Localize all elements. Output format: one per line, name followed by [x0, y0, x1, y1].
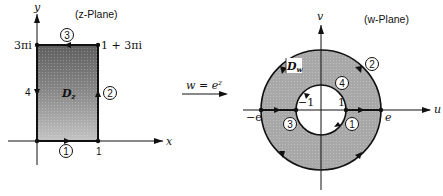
- corner-label-top-left: 3πi: [14, 39, 32, 52]
- x-axis-arrow-icon: [154, 138, 163, 144]
- svg-text:4: 4: [339, 78, 345, 89]
- x-tick-1: 1: [96, 146, 102, 157]
- z-plane-title: (z-Plane): [75, 8, 118, 20]
- conformal-map-figure: (z-Plane) y x 3πi 1 + 3πi 1 Dz 1 2 3 4 w…: [0, 0, 443, 196]
- svg-text:2: 2: [107, 88, 113, 99]
- curve-badge-pos-segment: 4: [336, 77, 349, 90]
- mapping-arrow: w = ez: [182, 79, 228, 97]
- corner-dot: [96, 139, 100, 143]
- w-plane: (w-Plane) v u −e −1 1 e Dw 1 2 3 4: [243, 10, 441, 190]
- tick-label-neg-e: −e: [246, 111, 262, 124]
- diagram-canvas: (z-Plane) y x 3πi 1 + 3πi 1 Dz 1 2 3 4 w…: [0, 0, 443, 196]
- v-axis-arrow-icon: [318, 25, 324, 34]
- x-axis-label: x: [166, 135, 173, 148]
- mapping-label: w = ez: [186, 79, 222, 92]
- y-axis-arrow-icon: [34, 14, 40, 23]
- edge-label-left: 4: [25, 87, 31, 98]
- corner-dot: [96, 43, 100, 47]
- u-axis-arrow-icon: [422, 107, 431, 113]
- edge-badge-bottom: 1: [60, 145, 73, 158]
- svg-text:1: 1: [349, 119, 355, 130]
- curve-badge-neg-segment: 3: [284, 118, 297, 131]
- u-axis-label: u: [434, 103, 441, 116]
- tick-label-pos-1: 1: [338, 96, 345, 109]
- v-axis-label: v: [317, 10, 324, 23]
- curve-badge-outer: 2: [366, 58, 379, 71]
- svg-text:1: 1: [63, 146, 69, 157]
- tick-label-pos-e: e: [385, 111, 392, 124]
- svg-text:3: 3: [287, 119, 293, 130]
- corner-dot: [35, 139, 39, 143]
- point-pos-e: [379, 108, 383, 112]
- tick-label-neg-1: −1: [298, 96, 314, 109]
- curve-badge-inner: 1: [346, 118, 359, 131]
- z-plane: (z-Plane) y x 3πi 1 + 3πi 1 Dz 1 2 3 4: [8, 1, 173, 165]
- edge-badge-right: 2: [104, 87, 117, 100]
- mapping-arrow-icon: [219, 91, 228, 97]
- w-plane-title: (w-Plane): [364, 13, 409, 25]
- svg-text:2: 2: [369, 59, 375, 70]
- corner-dot: [35, 43, 39, 47]
- edge-badge-top: 3: [61, 29, 74, 42]
- svg-text:3: 3: [64, 30, 70, 41]
- corner-label-top-right: 1 + 3πi: [101, 39, 142, 52]
- y-axis-label: y: [33, 1, 41, 14]
